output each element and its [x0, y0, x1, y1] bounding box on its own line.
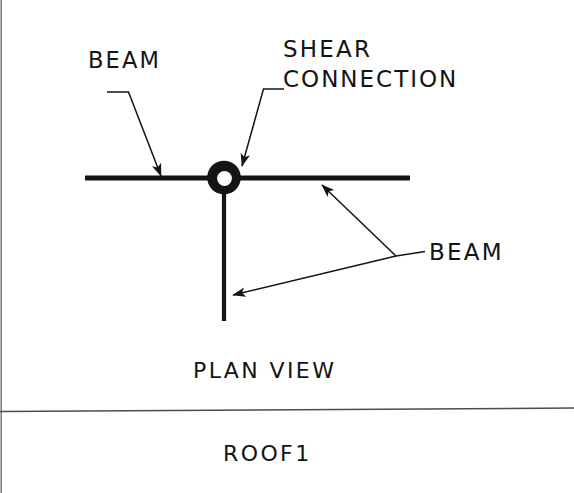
leader-beam-left — [107, 92, 161, 176]
caption-plan-view: PLAN VIEW — [193, 358, 336, 383]
leader-beam-right — [233, 185, 425, 295]
caption-roof-title: ROOF1 — [223, 441, 312, 466]
drawing-sheet: BEAM SHEAR CONNECTION BEAM PLAN VIEW ROO… — [0, 0, 574, 493]
leader-shear-connection — [242, 89, 284, 166]
label-beam-left: BEAM — [88, 47, 161, 73]
label-shear-connection-line2: CONNECTION — [283, 66, 458, 92]
label-shear-connection-line1: SHEAR — [283, 36, 372, 62]
label-beam-right: BEAM — [429, 239, 504, 265]
shear-connection-ring-symbol — [207, 161, 241, 195]
divider-rule — [0, 408, 574, 412]
